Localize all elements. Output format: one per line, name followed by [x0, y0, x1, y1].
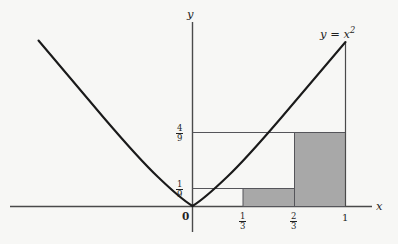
- y-axis-label: y: [187, 9, 194, 21]
- fraction-denominator: 9: [176, 189, 183, 199]
- fraction-one-third: 1 3: [239, 212, 246, 230]
- fraction-denominator: 3: [239, 221, 246, 231]
- riemann-sum-figure: y x 0 y = x2 4 9 1 9 1 3 2 3 1: [0, 0, 398, 244]
- fraction-denominator: 9: [176, 133, 183, 143]
- curve-equation-exponent: 2: [350, 25, 355, 35]
- riemann-rectangle-2: [295, 133, 346, 207]
- origin-label: 0: [182, 211, 189, 222]
- fraction-numerator: 4: [176, 124, 183, 133]
- fraction-four-ninths: 4 9: [176, 124, 183, 142]
- curve-equation-label: y = x2: [320, 26, 355, 40]
- curve-equation-text: y = x: [320, 27, 350, 41]
- fraction-two-thirds: 2 3: [290, 212, 297, 230]
- x-tick-label-one-third: 1 3: [239, 212, 246, 230]
- x-tick-label-two-thirds: 2 3: [290, 212, 297, 230]
- y-tick-label-four-ninths: 4 9: [176, 124, 183, 142]
- fraction-numerator: 1: [239, 212, 246, 221]
- fraction-numerator: 2: [290, 212, 297, 221]
- y-tick-label-one-ninth: 1 9: [176, 180, 183, 198]
- riemann-rectangle-1: [243, 189, 295, 207]
- fraction-one-ninth: 1 9: [176, 180, 183, 198]
- x-axis-label: x: [376, 201, 383, 213]
- fraction-denominator: 3: [290, 221, 297, 231]
- fraction-numerator: 1: [176, 180, 183, 189]
- x-tick-label-one: 1: [342, 213, 348, 223]
